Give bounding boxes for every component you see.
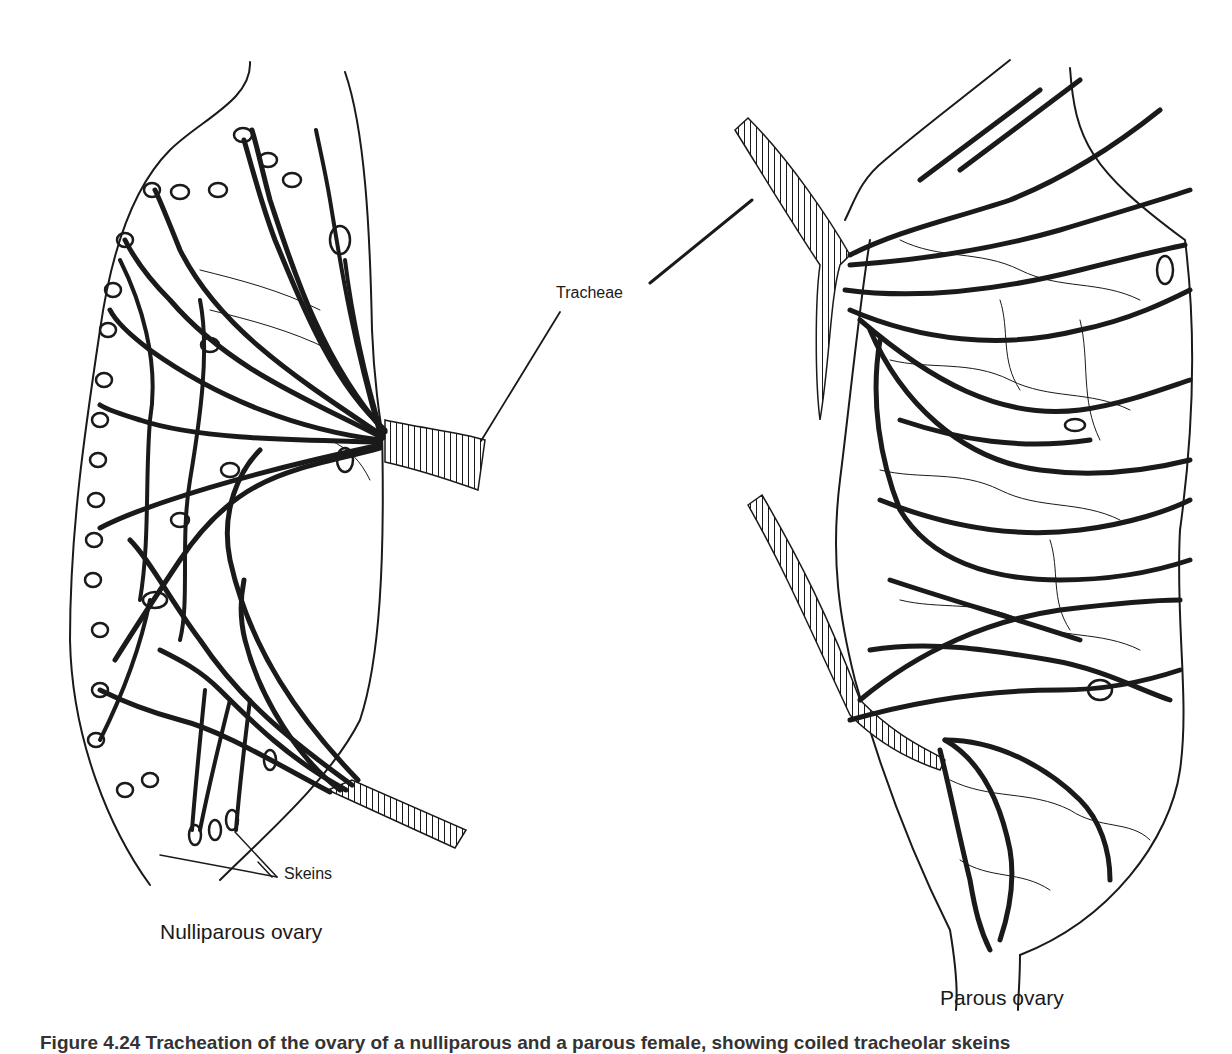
- skeins-label: Skeins: [284, 865, 332, 883]
- figure-caption: Figure 4.24 Tracheation of the ovary of …: [40, 1032, 1010, 1054]
- nulliparous-ovary-title: Nulliparous ovary: [160, 920, 322, 944]
- tracheae-leader-lines: [481, 200, 752, 441]
- parous-ovary-drawing: [735, 60, 1192, 1010]
- parous-ovary-title: Parous ovary: [940, 986, 1064, 1010]
- tracheae-label: Tracheae: [556, 284, 623, 302]
- nulliparous-ovary-drawing: [70, 62, 485, 885]
